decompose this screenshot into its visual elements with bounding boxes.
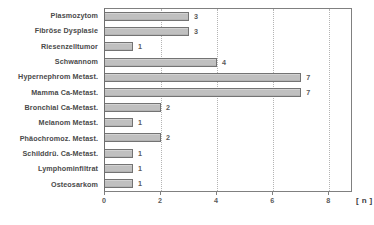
bar-row: 1 bbox=[105, 39, 351, 54]
x-tick-label: 6 bbox=[270, 197, 274, 204]
x-tick-label: 8 bbox=[326, 197, 330, 204]
category-axis: PlasmozytomFibröse DysplasieRiesenzelltu… bbox=[0, 8, 102, 192]
bar bbox=[105, 179, 133, 188]
bar bbox=[105, 133, 161, 142]
x-tick bbox=[272, 192, 273, 195]
bar bbox=[105, 88, 301, 97]
bar-series: 331477212111 bbox=[105, 9, 351, 191]
bar bbox=[105, 42, 133, 51]
bar-row: 3 bbox=[105, 24, 351, 39]
bar-row: 7 bbox=[105, 85, 351, 100]
x-tick bbox=[216, 192, 217, 195]
category-label: Lymphominfiltrat bbox=[0, 161, 102, 176]
category-label: Schilddrü. Ca-Metast. bbox=[0, 146, 102, 161]
bar-value-label: 1 bbox=[138, 150, 142, 157]
bar-row: 1 bbox=[105, 161, 351, 176]
category-label: Schwannom bbox=[0, 54, 102, 69]
bar-value-label: 1 bbox=[138, 165, 142, 172]
category-label: Osteosarkom bbox=[0, 177, 102, 192]
bar bbox=[105, 164, 133, 173]
category-label: Bronchial Ca-Metast. bbox=[0, 100, 102, 115]
category-label: Hypernephrom Metast. bbox=[0, 69, 102, 84]
bar-value-label: 1 bbox=[138, 180, 142, 187]
bar-row: 7 bbox=[105, 70, 351, 85]
x-tick bbox=[104, 192, 105, 195]
bar-value-label: 3 bbox=[194, 13, 198, 20]
x-tick-label: 0 bbox=[102, 197, 106, 204]
bar-row: 3 bbox=[105, 9, 351, 24]
bar-row: 1 bbox=[105, 146, 351, 161]
bar-value-label: 1 bbox=[138, 43, 142, 50]
category-label: Mamma Ca-Metast. bbox=[0, 85, 102, 100]
category-label: Fibröse Dysplasie bbox=[0, 23, 102, 38]
bar-value-label: 2 bbox=[166, 134, 170, 141]
category-label: Plasmozytom bbox=[0, 8, 102, 23]
bar-row: 4 bbox=[105, 55, 351, 70]
category-label: Melanom Metast. bbox=[0, 115, 102, 130]
category-label: Riesenzelltumor bbox=[0, 39, 102, 54]
x-tick-label: 4 bbox=[214, 197, 218, 204]
bar-row: 1 bbox=[105, 115, 351, 130]
x-tick bbox=[328, 192, 329, 195]
category-label: Phäochromoz. Metast. bbox=[0, 131, 102, 146]
bar bbox=[105, 73, 301, 82]
bar-value-label: 1 bbox=[138, 119, 142, 126]
bar-value-label: 4 bbox=[222, 59, 226, 66]
bar bbox=[105, 58, 217, 67]
x-axis: 02468 bbox=[104, 192, 352, 212]
x-axis-title: [ n ] bbox=[356, 197, 373, 205]
bar-value-label: 3 bbox=[194, 28, 198, 35]
x-tick bbox=[160, 192, 161, 195]
plot-area: 331477212111 bbox=[104, 8, 352, 192]
bar-chart: PlasmozytomFibröse DysplasieRiesenzelltu… bbox=[0, 0, 374, 225]
bar bbox=[105, 149, 133, 158]
bar-row: 1 bbox=[105, 176, 351, 191]
bar bbox=[105, 118, 133, 127]
bar bbox=[105, 103, 161, 112]
bar-value-label: 7 bbox=[306, 89, 310, 96]
bar bbox=[105, 27, 189, 36]
x-tick-label: 2 bbox=[158, 197, 162, 204]
bar-value-label: 7 bbox=[306, 74, 310, 81]
bar-row: 2 bbox=[105, 100, 351, 115]
bar-value-label: 2 bbox=[166, 104, 170, 111]
bar bbox=[105, 12, 189, 21]
bar-row: 2 bbox=[105, 130, 351, 145]
